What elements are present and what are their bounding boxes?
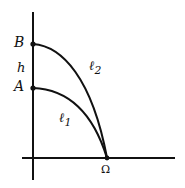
point-a-label: A bbox=[14, 79, 24, 93]
point-omega-marker bbox=[105, 156, 110, 161]
curve-l1-label-subscript: 1 bbox=[64, 116, 71, 129]
curve-l1-label: ℓ1 bbox=[59, 111, 71, 128]
curve-l2-label-subscript: 2 bbox=[94, 64, 101, 77]
point-a-marker bbox=[30, 85, 35, 90]
axes-group bbox=[22, 12, 175, 180]
geometry-figure: B h A ℓ2 ℓ1 Ω bbox=[0, 0, 185, 188]
figure-canvas bbox=[0, 0, 185, 188]
point-omega-label: Ω bbox=[101, 164, 110, 175]
curve-l2-label: ℓ2 bbox=[89, 59, 101, 76]
point-b-marker bbox=[30, 41, 35, 46]
segment-h-label: h bbox=[17, 61, 25, 74]
point-b-label: B bbox=[14, 35, 24, 49]
